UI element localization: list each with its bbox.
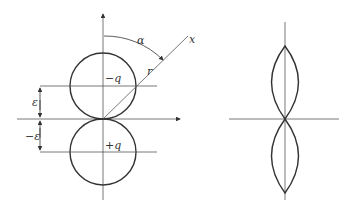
- left-panel: α x r −q +q ε −ε: [17, 14, 196, 200]
- upper-charge-label: −q: [105, 72, 121, 85]
- x-axis-label: x: [189, 33, 196, 46]
- alpha-arc: [104, 36, 163, 60]
- radius-label: r: [147, 65, 153, 78]
- alpha-label: α: [137, 34, 145, 47]
- dipole-diagram: α x r −q +q ε −ε: [0, 0, 353, 211]
- right-panel: [229, 22, 339, 200]
- epsilon-neg-label: −ε: [25, 130, 40, 143]
- epsilon-pos-label: ε: [32, 96, 38, 109]
- lower-charge-label: +q: [105, 139, 121, 152]
